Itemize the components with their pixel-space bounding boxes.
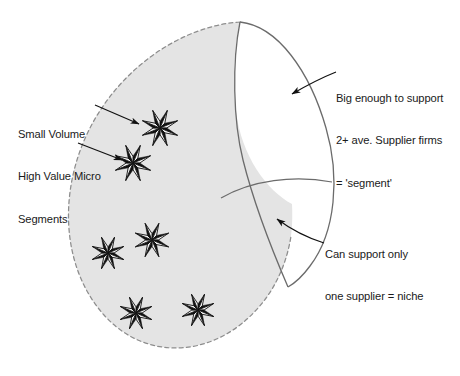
annotation-niche-line-1: Can support only bbox=[325, 247, 423, 261]
annotation-micro-line-3: Segments bbox=[18, 212, 101, 226]
annotation-segment-line-2: 2+ ave. Supplier firms bbox=[336, 133, 443, 147]
annotation-micro-line-2: High Value Micro bbox=[18, 169, 101, 183]
annotation-segment-line-1: Big enough to support bbox=[336, 91, 443, 105]
annotation-niche-line-2: one supplier = niche bbox=[325, 289, 423, 303]
annotation-segment: Big enough to support 2+ ave. Supplier f… bbox=[336, 62, 443, 219]
annotation-niche: Can support only one supplier = niche bbox=[325, 218, 423, 332]
annotation-micro-segments: Small Volume High Value Micro Segments bbox=[18, 98, 101, 255]
market-crescent-shape bbox=[68, 22, 292, 348]
arrow-to-segment-region bbox=[292, 72, 336, 94]
annotation-segment-line-3: = 'segment' bbox=[336, 176, 443, 190]
annotation-micro-line-1: Small Volume bbox=[18, 127, 101, 141]
diagram-root: Big enough to support 2+ ave. Supplier f… bbox=[0, 0, 460, 376]
